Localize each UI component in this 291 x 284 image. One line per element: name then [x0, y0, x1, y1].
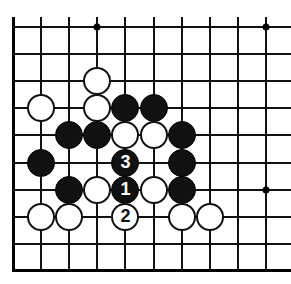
- grid-line-vertical: [265, 17, 267, 272]
- move-stone-1[interactable]: 1: [111, 176, 139, 204]
- move-stone-3[interactable]: 3: [111, 149, 139, 177]
- white-stone[interactable]: [27, 203, 55, 231]
- grid-line-horizontal: [12, 243, 291, 245]
- board-edge-line-bottom: [12, 269, 291, 272]
- move-number-label: 2: [120, 207, 130, 225]
- star-point: [262, 186, 269, 193]
- go-board-diagram: 312: [0, 0, 291, 284]
- white-stone[interactable]: [196, 203, 224, 231]
- white-stone[interactable]: [140, 176, 168, 204]
- move-number-label: 1: [120, 180, 130, 198]
- grid-line-vertical: [40, 17, 42, 272]
- grid-line-vertical: [237, 17, 239, 272]
- grid-line-vertical: [209, 17, 211, 272]
- board-edge-line-left: [12, 17, 15, 272]
- grid-line-horizontal: [12, 26, 291, 28]
- white-stone[interactable]: [27, 94, 55, 122]
- black-stone[interactable]: [140, 94, 168, 122]
- white-stone[interactable]: [83, 94, 111, 122]
- white-stone[interactable]: [55, 203, 83, 231]
- grid-line-horizontal: [12, 53, 291, 55]
- white-stone[interactable]: [168, 203, 196, 231]
- white-stone[interactable]: [83, 67, 111, 95]
- star-point: [262, 24, 269, 31]
- grid-line-horizontal: [12, 80, 291, 82]
- black-stone[interactable]: [111, 94, 139, 122]
- star-point: [94, 24, 101, 31]
- move-stone-2[interactable]: 2: [111, 203, 139, 231]
- white-stone[interactable]: [111, 121, 139, 149]
- black-stone[interactable]: [168, 121, 196, 149]
- black-stone[interactable]: [27, 149, 55, 177]
- white-stone[interactable]: [83, 176, 111, 204]
- black-stone[interactable]: [83, 121, 111, 149]
- black-stone[interactable]: [168, 176, 196, 204]
- black-stone[interactable]: [55, 121, 83, 149]
- black-stone[interactable]: [168, 149, 196, 177]
- white-stone[interactable]: [140, 121, 168, 149]
- move-number-label: 3: [120, 153, 130, 171]
- black-stone[interactable]: [55, 176, 83, 204]
